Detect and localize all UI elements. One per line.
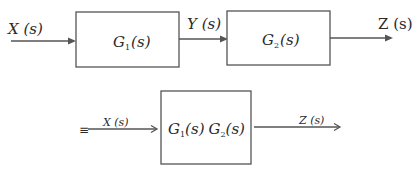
intermediate-label-y: Y (s) bbox=[187, 15, 221, 33]
input-arrowhead bbox=[68, 38, 76, 45]
block-g1g2-part1-name: G bbox=[168, 120, 180, 138]
block-g1g2-part2-name: G bbox=[208, 120, 220, 138]
input-label-x: X (s) bbox=[7, 20, 43, 38]
output-arrowhead bbox=[385, 35, 393, 42]
block-g2 bbox=[227, 11, 330, 65]
block-g2-arg: (s) bbox=[280, 31, 300, 49]
output-label-z: Z (s) bbox=[378, 15, 413, 33]
equivalent-row: ≡ X (s) G1(s)G2(s) Z (s) bbox=[79, 91, 340, 164]
block-g2-label: G2(s) bbox=[262, 31, 300, 50]
block-g1-name: G bbox=[113, 33, 125, 51]
block-diagram: X (s) G1(s) Y (s) G2(s) Z (s) ≡ X (s) bbox=[0, 0, 417, 172]
block-g1 bbox=[76, 12, 179, 67]
equivalence-symbol: ≡ bbox=[79, 123, 89, 137]
equiv-output-label-z: Z (s) bbox=[298, 114, 324, 127]
equiv-input-label-x: X (s) bbox=[102, 116, 129, 129]
block-g2-sub: 2 bbox=[274, 41, 279, 50]
block-g1g2-part2-arg: (s) bbox=[226, 120, 246, 138]
block-g1-arg: (s) bbox=[131, 33, 151, 51]
block-g2-name: G bbox=[262, 31, 274, 49]
top-row: X (s) G1(s) Y (s) G2(s) Z (s) bbox=[7, 11, 413, 67]
block-g1-sub: 1 bbox=[125, 43, 130, 52]
block-g1g2-part1-arg: (s) bbox=[185, 120, 205, 138]
block-g1-label: G1(s) bbox=[113, 33, 151, 52]
